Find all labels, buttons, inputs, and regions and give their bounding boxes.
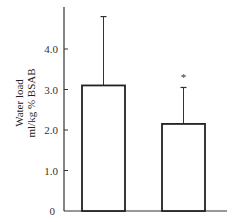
- bar-1: [82, 85, 125, 211]
- y-axis-label-line-1: Water load: [13, 68, 25, 137]
- bar-2: [162, 124, 205, 211]
- y-tick-label: 1.0: [44, 165, 58, 177]
- bars: *: [82, 17, 205, 211]
- y-tick-label: 0: [50, 205, 56, 217]
- y-axis-label-line-2: ml/kg % BSAB: [25, 68, 37, 137]
- significance-asterisk: *: [181, 71, 187, 83]
- y-tick-label: 4.0: [44, 43, 58, 55]
- y-axis-label: Water load ml/kg % BSAB: [2, 78, 48, 128]
